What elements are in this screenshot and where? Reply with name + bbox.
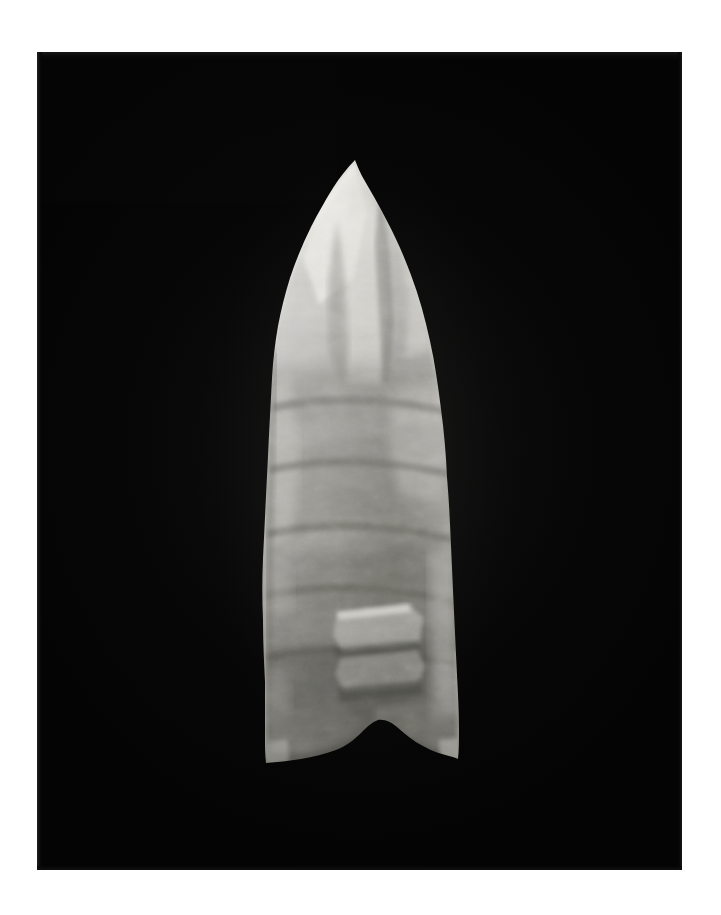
print-edge-left [37, 52, 42, 870]
projectile-point-image [37, 52, 682, 870]
artifact-layer [37, 52, 682, 870]
print-edge-right [678, 52, 682, 870]
print-edge-bottom [37, 866, 682, 870]
print-edge-top [37, 52, 682, 61]
page-sheet [0, 0, 721, 915]
photograph-print [37, 52, 682, 870]
